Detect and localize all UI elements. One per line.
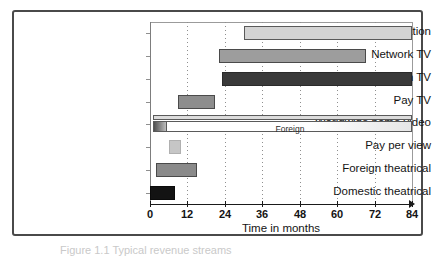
x-tick (150, 201, 151, 207)
x-tick (225, 201, 226, 207)
bar-foreign-theatrical (156, 163, 197, 177)
x-tick-label: 48 (280, 208, 320, 220)
y-axis-label: Pay TV (291, 94, 437, 106)
x-tick-label: 24 (205, 208, 245, 220)
x-tick-label: 0 (130, 208, 170, 220)
y-tick (146, 102, 150, 103)
x-tick-label: 72 (355, 208, 395, 220)
x-axis-title: Time in months (150, 222, 412, 234)
bar-pay-per-view (169, 140, 181, 154)
y-tick (146, 124, 150, 125)
bar-foreign-tv (222, 72, 412, 86)
bar-domestic-theatrical (150, 186, 175, 200)
bar-worldwide-home-video-band (153, 115, 412, 120)
bar-worldwide-home-video-domestic-segment (153, 121, 167, 132)
y-axis-label: Pay per view (291, 139, 437, 151)
revenue-streams-figure: SyndicationNetwork TVForeign TVPay TVWor… (0, 0, 437, 259)
plot-border-top (150, 22, 413, 23)
x-tick-label: 84 (392, 208, 432, 220)
x-tick (375, 201, 376, 207)
x-tick-label: 60 (317, 208, 357, 220)
bar-pay-tv (178, 95, 215, 109)
x-tick (337, 201, 338, 207)
y-tick (146, 170, 150, 171)
bar-annotation-foreign: Foreign (265, 124, 315, 134)
x-tick (300, 201, 301, 207)
bar-network-tv (219, 49, 366, 63)
y-axis-label: Domestic theatrical (291, 185, 437, 197)
x-tick (187, 201, 188, 207)
x-tick (412, 201, 413, 207)
y-tick (146, 56, 150, 57)
x-tick-label: 12 (167, 208, 207, 220)
x-tick (262, 201, 263, 207)
y-tick (146, 147, 150, 148)
bar-syndication (244, 26, 412, 40)
figure-caption: Figure 1.1 Typical revenue streams (60, 244, 390, 258)
y-tick (146, 79, 150, 80)
x-axis-line (150, 204, 412, 205)
y-axis-label: Foreign theatrical (291, 162, 437, 174)
x-tick-label: 36 (242, 208, 282, 220)
plot-border-left (150, 22, 151, 204)
y-tick (146, 33, 150, 34)
